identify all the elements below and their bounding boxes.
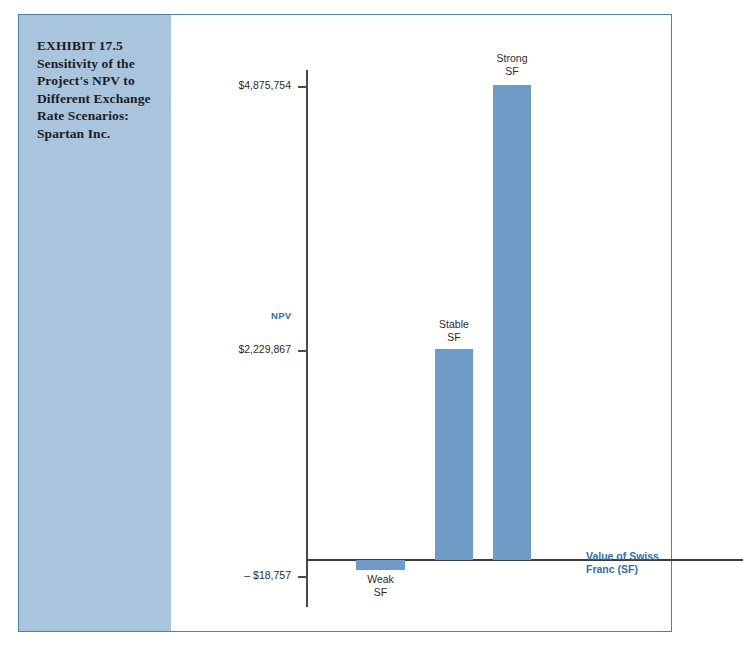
- x-axis-title-line-2: Franc (SF): [586, 563, 659, 576]
- caption-line-5: Rate Scenarios:: [37, 107, 163, 125]
- y-tick-label-mid-wrap: $2,229,867: [171, 343, 291, 357]
- bar-label-weak-sf: Weak SF: [356, 573, 405, 598]
- bar-label-strong-sf: Strong SF: [473, 52, 551, 77]
- y-tick-label-top-wrap: $4,875,754: [171, 79, 291, 93]
- bar-label-stable-sf: Stable SF: [415, 318, 493, 343]
- caption-line-4: Different Exchange: [37, 90, 163, 108]
- figure-frame: EXHIBIT 17.5 Sensitivity of the Project'…: [18, 14, 672, 632]
- plot-area: $4,875,754 $2,229,867 – $18,757 NPV Valu…: [171, 15, 671, 631]
- y-tick-mark-top: [298, 86, 307, 88]
- x-axis-title-line-1: Value of Swiss: [586, 550, 659, 563]
- y-axis-title: NPV: [271, 310, 291, 321]
- bar-label-stable-sf-line-1: Stable: [415, 318, 493, 331]
- bar-label-strong-sf-line-1: Strong: [473, 52, 551, 65]
- caption-line-3: Project's NPV to: [37, 72, 163, 90]
- x-axis-title: Value of Swiss Franc (SF): [586, 550, 659, 576]
- bar-label-weak-sf-line-2: SF: [356, 586, 405, 599]
- y-tick-label-mid: $2,229,867: [238, 343, 291, 355]
- bar-label-strong-sf-line-2: SF: [473, 65, 551, 78]
- caption-line-1: EXHIBIT 17.5: [37, 37, 163, 55]
- y-tick-label-bottom-wrap: – $18,757: [171, 569, 291, 583]
- bar-label-weak-sf-line-1: Weak: [356, 573, 405, 586]
- caption-line-2: Sensitivity of the: [37, 55, 163, 73]
- y-tick-mark-mid: [298, 350, 307, 352]
- exhibit-caption: EXHIBIT 17.5 Sensitivity of the Project'…: [37, 37, 163, 142]
- caption-line-6: Spartan Inc.: [37, 125, 163, 143]
- y-tick-label-top: $4,875,754: [238, 79, 291, 91]
- y-axis-line: [306, 70, 308, 607]
- bar-label-stable-sf-line-2: SF: [415, 331, 493, 344]
- bar-stable-sf: [435, 349, 473, 560]
- y-tick-mark-bottom: [298, 576, 307, 578]
- bar-weak-sf: [356, 560, 405, 570]
- y-tick-label-bottom: – $18,757: [244, 569, 291, 581]
- caption-band: EXHIBIT 17.5 Sensitivity of the Project'…: [19, 15, 171, 631]
- bar-strong-sf: [493, 85, 531, 560]
